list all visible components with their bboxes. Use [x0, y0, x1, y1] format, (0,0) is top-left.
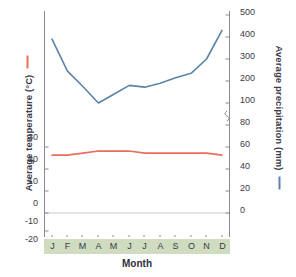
month-label-aug: A [153, 239, 168, 254]
month-label-feb: F [60, 239, 75, 254]
right-axis-ticks [226, 15, 230, 213]
left-tick-minus10: -10 [10, 216, 38, 226]
x-axis-title: Month [44, 258, 230, 269]
climate-chart: Average temperature (°C) Average precipi… [0, 0, 296, 277]
precipitation-legend-line-icon [278, 177, 280, 190]
month-label-nov: N [199, 239, 214, 254]
right-tick-100: 100 [240, 95, 255, 105]
right-tick-20: 20 [240, 183, 250, 193]
left-tick-10: 10 [10, 176, 38, 186]
month-axis-band: J F M A M J J A S O N D [44, 239, 230, 254]
left-tick-30: 30 [10, 132, 38, 142]
temperature-legend-line-icon [27, 56, 29, 69]
month-label-jan: J [45, 239, 60, 254]
precipitation-line-series [52, 30, 222, 103]
month-label-oct: O [184, 239, 199, 254]
left-tick-0: 0 [10, 198, 38, 208]
month-label-dec: D [215, 239, 230, 254]
right-axis-break-icon [225, 111, 229, 121]
plot-svg [44, 11, 230, 237]
right-tick-40: 40 [240, 161, 250, 171]
month-label-may: M [106, 239, 121, 254]
right-tick-80: 80 [240, 117, 250, 127]
left-tick-minus20: -20 [10, 234, 38, 244]
right-tick-60: 60 [240, 139, 250, 149]
left-tick-20: 20 [10, 154, 38, 164]
month-label-jun: J [122, 239, 137, 254]
plot-area [44, 11, 230, 237]
right-axis-title-text: Average precipitation (mm) [274, 45, 285, 170]
right-tick-400: 400 [240, 29, 255, 39]
right-tick-200: 200 [240, 73, 255, 83]
temperature-line-series [52, 151, 222, 155]
x-axis-ticks [52, 235, 222, 237]
left-axis-ticks [45, 147, 49, 237]
right-tick-0: 0 [240, 205, 245, 215]
month-label-mar: M [75, 239, 90, 254]
right-tick-300: 300 [240, 51, 255, 61]
right-tick-500: 500 [240, 7, 255, 17]
month-label-jul: J [137, 239, 152, 254]
right-axis-title: Average precipitation (mm) [274, 35, 285, 201]
cropped-caption-artifact [6, 0, 136, 5]
month-label-apr: A [91, 239, 106, 254]
month-label-sep: S [168, 239, 183, 254]
